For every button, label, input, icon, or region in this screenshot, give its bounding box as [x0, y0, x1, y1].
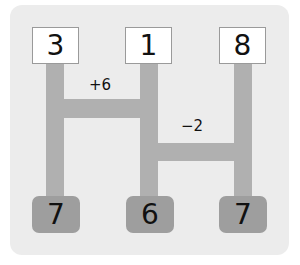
- bottom-number-1: 7: [32, 196, 80, 233]
- top-number-3: 8: [219, 27, 266, 64]
- rung-label-1: +6: [89, 76, 111, 94]
- top-number-2: 1: [125, 27, 172, 64]
- bottom-number-2: 6: [126, 196, 174, 233]
- vertical-bar-middle: [140, 64, 158, 198]
- rung-middle-right: [158, 143, 234, 161]
- rung-left-middle: [64, 99, 140, 118]
- vertical-bar-right: [234, 64, 252, 198]
- vertical-bar-left: [46, 64, 64, 198]
- rung-label-2: −2: [181, 117, 203, 135]
- top-number-1: 3: [32, 27, 79, 64]
- bottom-number-3: 7: [219, 196, 267, 233]
